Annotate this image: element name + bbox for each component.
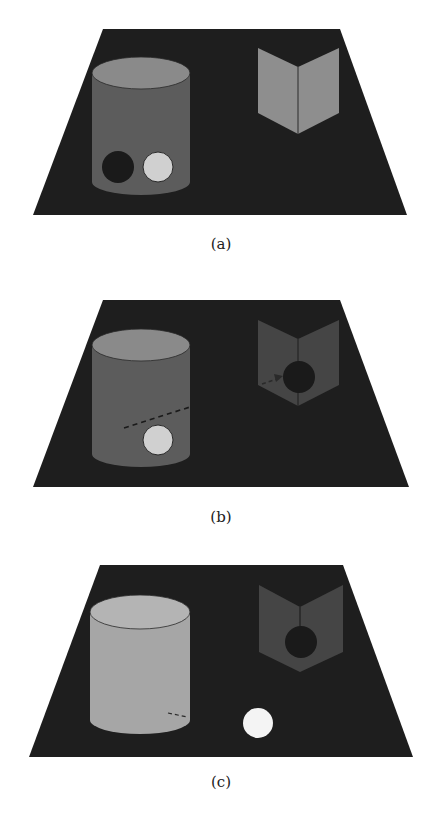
panel-a: (a) (0, 0, 442, 265)
floor-plane (33, 29, 407, 215)
cylinder (90, 595, 190, 734)
caption-b: (b) (0, 508, 442, 526)
scene-b (0, 270, 442, 540)
dark-ball (102, 151, 134, 183)
panel-c: (c) (0, 545, 442, 823)
light-ball (143, 152, 173, 182)
scene-a (0, 0, 442, 265)
dark-ball (283, 361, 315, 393)
cylinder (92, 329, 190, 467)
caption-c: (c) (0, 773, 442, 791)
dark-ball (285, 626, 317, 658)
white-ball (243, 708, 273, 738)
floor-plane (29, 565, 413, 757)
caption-a: (a) (0, 235, 442, 253)
light-ball (143, 425, 173, 455)
panel-b: (b) (0, 270, 442, 540)
floor-plane (33, 300, 409, 487)
